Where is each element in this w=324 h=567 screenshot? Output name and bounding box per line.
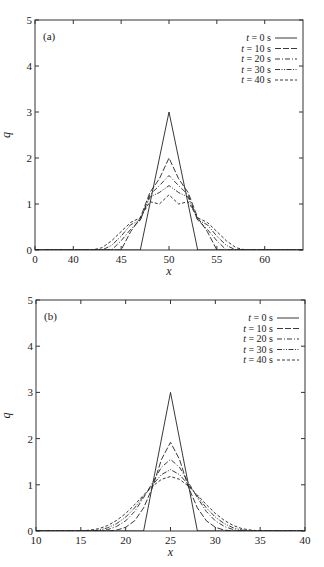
legend-label: t = 30 s <box>243 344 273 355</box>
legend-entry: t = 10 s <box>243 323 299 334</box>
legend-label: t = 0 s <box>246 32 271 43</box>
y-tick-label: 3 <box>28 386 34 398</box>
series-line-3 <box>36 470 305 531</box>
legend-entry: t = 0 s <box>248 312 299 323</box>
y-axis-label: q <box>0 413 13 419</box>
x-tick-label: 60 <box>259 253 271 265</box>
legend-entry: t = 30 s <box>243 344 299 355</box>
legend-label: t = 40 s <box>243 354 273 365</box>
series-line-4 <box>36 477 305 532</box>
x-axis-label: x <box>167 545 174 559</box>
legend-entry: t = 30 s <box>241 64 297 75</box>
y-tick-label: 4 <box>27 60 33 72</box>
legend-entry: t = 10 s <box>241 43 297 54</box>
series-line-2 <box>35 176 303 251</box>
panel-label: (a) <box>43 30 56 43</box>
legend-label: t = 20 s <box>241 53 271 64</box>
y-tick-label: 4 <box>28 340 34 352</box>
x-tick-label: 45 <box>116 253 128 265</box>
x-tick-label: 30 <box>210 534 222 546</box>
panel-label: (b) <box>44 310 57 323</box>
legend-entry: t = 0 s <box>246 32 297 43</box>
legend-label: t = 0 s <box>248 312 273 323</box>
x-tick-label: 10 <box>31 534 43 546</box>
legend-entry: t = 40 s <box>241 74 297 85</box>
series-line-1 <box>36 442 305 531</box>
y-tick-label: 2 <box>27 152 33 164</box>
x-tick-label: 20 <box>120 534 132 546</box>
x-tick-label: 0 <box>32 253 38 265</box>
legend-label: t = 10 s <box>241 43 271 54</box>
legend-entry: t = 20 s <box>243 333 299 344</box>
series-line-1 <box>35 158 303 250</box>
series-line-0 <box>36 392 305 531</box>
x-tick-label: 40 <box>68 253 80 265</box>
y-tick-label: 2 <box>28 433 34 445</box>
series-line-2 <box>36 459 305 531</box>
y-axis-label: q <box>0 132 13 138</box>
y-tick-label: 5 <box>28 294 34 306</box>
chart-panel-a: 01234504045505560xq(a)t = 0 st = 10 st =… <box>0 0 324 283</box>
legend-label: t = 20 s <box>243 333 273 344</box>
y-tick-label: 1 <box>27 198 33 210</box>
x-tick-label: 15 <box>75 534 87 546</box>
legend-label: t = 30 s <box>241 64 271 75</box>
chart-panel-b: 01234510152025303540xq(b)t = 0 st = 10 s… <box>0 283 324 567</box>
x-tick-label: 55 <box>211 253 223 265</box>
legend-label: t = 40 s <box>241 74 271 85</box>
y-tick-label: 5 <box>27 14 33 26</box>
legend-label: t = 10 s <box>243 323 273 334</box>
legend-entry: t = 20 s <box>241 53 297 64</box>
series-line-0 <box>35 112 303 250</box>
legend-entry: t = 40 s <box>243 354 299 365</box>
y-tick-label: 1 <box>28 479 34 491</box>
x-tick-label: 40 <box>300 534 312 546</box>
x-axis-label: x <box>165 264 172 278</box>
x-tick-label: 35 <box>255 534 267 546</box>
y-tick-label: 3 <box>27 106 33 118</box>
series-line-4 <box>35 195 303 250</box>
